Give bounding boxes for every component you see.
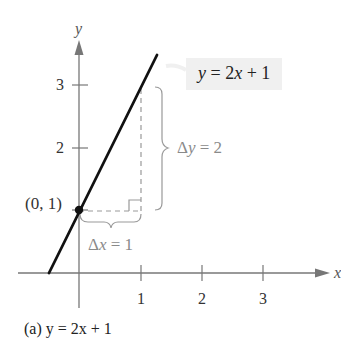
delta-y-label: Δy = 2 [177,139,222,156]
delta-y-symbol: Δ [177,138,188,157]
equation-var-y: y [198,63,206,83]
delta-x-label: Δx = 1 [88,236,133,253]
equation-equals: = 2 [206,63,234,83]
y-axis-label: y [75,21,82,37]
right-angle-marker [129,200,141,211]
x-tick-label-2: 2 [198,291,206,307]
x-tick-label-3: 3 [259,291,267,307]
y-intercept-point [75,206,83,214]
y-axis [72,40,88,308]
equation-label: y = 2x + 1 [186,58,282,90]
y-tick-label-2: 2 [56,140,64,156]
x-axis-arrow-icon [315,269,330,278]
x-axis-label: x [334,265,341,281]
y-tick-label-3: 3 [56,77,64,93]
y-axis-arrow-icon [75,40,84,55]
delta-x-value: = 1 [106,235,133,254]
figure-caption: (a) y = 2x + 1 [24,320,112,338]
equation-tail: + 1 [242,63,270,83]
delta-x-brace [80,214,141,228]
label-pointer [166,66,186,71]
point-label: (0, 1) [25,195,62,212]
delta-x-symbol: Δ [88,235,99,254]
delta-y-value: = 2 [195,138,222,157]
equation-var-x: x [234,63,242,83]
x-axis [18,265,330,281]
delta-y-brace [155,87,168,210]
x-tick-label-1: 1 [137,291,145,307]
